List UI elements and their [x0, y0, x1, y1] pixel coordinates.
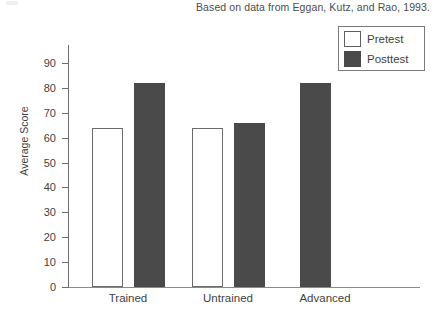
y-tick-label-80: 80	[16, 83, 56, 94]
legend-item-pretest: Pretest	[344, 30, 403, 48]
y-tick-label-50: 50	[16, 158, 56, 169]
legend-label-posttest: Posttest	[367, 53, 409, 65]
bar-trained-pretest	[92, 128, 123, 287]
y-tick-10	[62, 262, 69, 263]
y-tick-70	[62, 113, 69, 114]
y-tick-label-30: 30	[16, 207, 56, 218]
posttest-swatch-icon	[344, 51, 361, 67]
bar-untrained-pretest	[192, 128, 223, 287]
y-tick-label-70: 70	[16, 108, 56, 119]
y-tick-40	[62, 187, 69, 188]
figure-bar-chart: Based on data from Eggan, Kutz, and Rao,…	[0, 0, 434, 311]
x-label-advanced: Advanced	[265, 292, 385, 304]
y-tick-label-0: 0	[16, 282, 56, 293]
y-tick-50	[62, 163, 69, 164]
legend-label-pretest: Pretest	[367, 33, 403, 45]
y-tick-label-60: 60	[16, 133, 56, 144]
bar-advanced-posttest	[300, 83, 331, 287]
y-tick-label-10: 10	[16, 257, 56, 268]
y-tick-80	[62, 88, 69, 89]
y-tick-60	[62, 138, 69, 139]
y-tick-90	[62, 63, 69, 64]
y-tick-20	[62, 237, 69, 238]
y-tick-30	[62, 212, 69, 213]
y-tick-label-20: 20	[16, 232, 56, 243]
legend-item-posttest: Posttest	[344, 50, 409, 68]
y-axis-line	[68, 45, 69, 288]
y-tick-label-40: 40	[16, 182, 56, 193]
chart-legend: Pretest Posttest	[338, 26, 425, 71]
pretest-swatch-icon	[344, 31, 361, 47]
bar-untrained-posttest	[234, 123, 265, 287]
y-tick-label-90: 90	[16, 58, 56, 69]
bar-trained-posttest	[134, 83, 165, 287]
y-tick-0	[62, 287, 69, 288]
x-axis-line	[68, 287, 420, 288]
